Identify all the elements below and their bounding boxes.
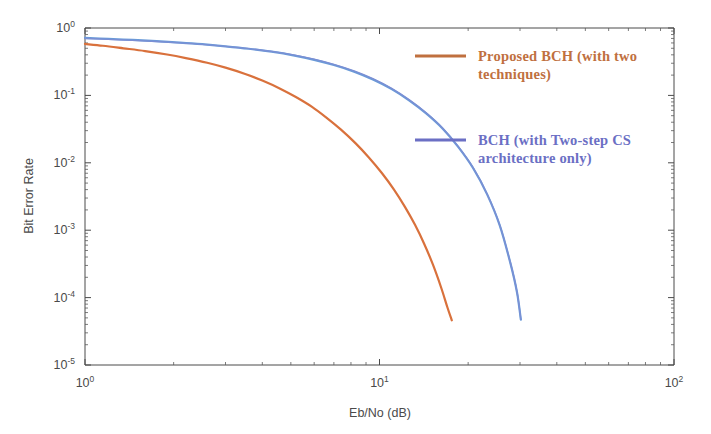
x-axis-label: Eb/No (dB) bbox=[349, 406, 411, 420]
series-line-1 bbox=[85, 38, 521, 320]
y-tick-label-1: 10-1 bbox=[54, 86, 76, 102]
y-tick-label-0: 100 bbox=[56, 19, 75, 35]
y-tick-label-4: 10-4 bbox=[54, 289, 76, 305]
legend-label-1-line1: BCH (with Two-step CS bbox=[478, 132, 631, 149]
x-tick-label-0: 100 bbox=[76, 374, 95, 390]
y-tick-label-5: 10-5 bbox=[54, 356, 76, 372]
series-line-2 bbox=[85, 38, 521, 319]
x-tick-label-1: 101 bbox=[370, 374, 389, 390]
data-series-group bbox=[85, 38, 521, 321]
chart-legend: Proposed BCH (with twotechniques)BCH (wi… bbox=[415, 48, 637, 167]
bit-error-rate-chart: 10010110210010-110-210-310-410-5 Eb/No (… bbox=[0, 0, 711, 434]
series-line-0 bbox=[85, 44, 452, 320]
axis-ticks bbox=[85, 28, 674, 365]
axis-tick-labels: 10010110210010-110-210-310-410-5 bbox=[54, 19, 684, 390]
x-tick-label-2: 102 bbox=[665, 374, 684, 390]
legend-label-1-line2: architecture only) bbox=[478, 150, 592, 167]
y-axis-label: Bit Error Rate bbox=[22, 158, 36, 234]
legend-label-0-line1: Proposed BCH (with two bbox=[478, 48, 637, 65]
legend-label-0-line2: techniques) bbox=[478, 66, 551, 83]
chart-figure: 10010110210010-110-210-310-410-5 Eb/No (… bbox=[0, 0, 711, 434]
y-tick-label-2: 10-2 bbox=[54, 154, 76, 170]
y-tick-label-3: 10-3 bbox=[54, 221, 76, 237]
axes-frame bbox=[85, 28, 674, 365]
